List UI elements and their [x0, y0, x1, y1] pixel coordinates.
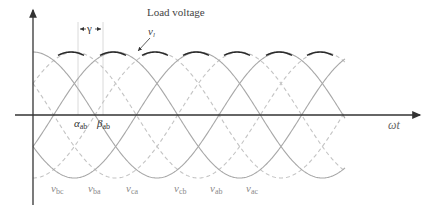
phase-label-vcb: vcb	[174, 183, 186, 196]
beta-ab-label: βab	[97, 118, 110, 131]
vl-pointer-arrow	[138, 38, 150, 51]
phase-label-vca: vca	[126, 183, 138, 196]
phase-label-vbc: vbc	[51, 183, 63, 196]
load-voltage-symbol: vl	[148, 25, 155, 39]
phase-label-vba: vba	[88, 183, 100, 196]
load-voltage-title: Load voltage	[147, 6, 205, 18]
x-axis-label: ωt	[388, 118, 400, 133]
phase-label-vab: vab	[210, 183, 222, 196]
overlap-angle-label: γ	[87, 22, 92, 34]
load-voltage-envelope	[58, 52, 333, 55]
overlap-guide-lines	[78, 22, 103, 115]
phase-label-vac: vac	[246, 183, 258, 196]
alpha-ab-label: αab	[74, 118, 87, 131]
